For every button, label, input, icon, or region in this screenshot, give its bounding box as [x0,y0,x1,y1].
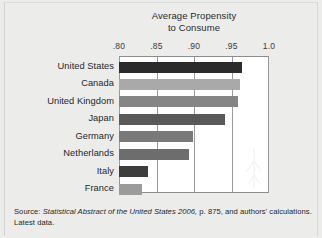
category-axis-labels: United StatesCanadaUnited KingdomJapanGe… [0,56,114,193]
x-axis-tick-labels: .80.85.90.951.0 [0,41,322,53]
category-label: Italy [0,166,114,176]
category-label: Canada [0,78,114,88]
category-label: Netherlands [0,148,114,158]
figure-container: Average Propensity to Consume .80.85.90.… [0,0,322,238]
source-title: Statistical Abstract of the United State… [41,207,198,216]
chart-title-line1: Average Propensity [119,10,269,22]
figure-border-right [317,2,318,236]
source-note: Source: Statistical Abstract of the Unit… [14,207,314,228]
x-tick-label: .90 [188,41,200,51]
bar [119,131,193,142]
chart-title: Average Propensity to Consume [119,10,269,33]
bar [119,62,242,73]
category-label: Japan [0,113,114,123]
category-label: France [0,183,114,193]
bar [119,166,148,177]
bar [119,184,142,195]
source-detail: p. 875, and authors' calculations. [197,207,312,216]
figure-border-top [4,2,318,3]
x-tick-label: .85 [150,41,162,51]
chart-title-line2: to Consume [119,22,269,34]
bar [119,149,189,160]
bar [119,96,238,107]
source-note-line2: Latest data. [14,218,314,229]
bar [119,79,240,90]
x-tick-label: .80 [113,41,125,51]
source-label: Source: [14,207,41,216]
bar [119,114,225,125]
x-tick-label: 1.0 [263,41,275,51]
category-label: Germany [0,131,114,141]
x-tick-label: .95 [225,41,237,51]
bar-series [119,56,269,193]
category-label: United States [0,61,114,71]
category-label: United Kingdom [0,96,114,106]
